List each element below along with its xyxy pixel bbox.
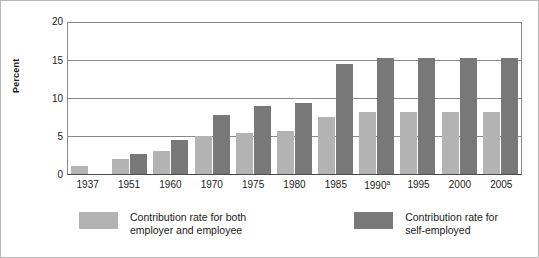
bar (254, 106, 271, 174)
x-tick-label: 1980 (274, 179, 315, 191)
bar (501, 58, 518, 174)
bar-group (400, 23, 435, 174)
x-tick-label: 2005 (481, 179, 522, 191)
bar (377, 58, 394, 174)
plot-area (67, 22, 522, 175)
x-tick-label: 1937 (67, 179, 108, 191)
legend-swatch-icon-light (79, 212, 118, 229)
bar-group (71, 23, 106, 174)
y-tick-label-0: 0 (23, 169, 63, 180)
legend-entry-employer-employee: Contribution rate for both employer and … (79, 211, 246, 237)
bar (442, 112, 459, 174)
x-tick-label: 1975 (233, 179, 274, 191)
bar (400, 112, 417, 174)
y-axis-ticks: 20 15 10 5 0 (19, 1, 63, 258)
bar-group (359, 23, 394, 174)
x-tick-footnote-marker: a (387, 179, 391, 186)
bar (359, 112, 376, 174)
x-tick-label: 1951 (109, 179, 150, 191)
bar-group (236, 23, 271, 174)
bar-group (277, 23, 312, 174)
bar (295, 103, 312, 174)
chart-legend: Contribution rate for both employer and … (79, 211, 498, 237)
bar (71, 166, 88, 174)
bar-group (195, 23, 230, 174)
bar (277, 131, 294, 174)
bar (460, 58, 477, 174)
x-tick-label: 1960 (150, 179, 191, 191)
bar (112, 159, 129, 174)
bar (418, 58, 435, 174)
bar (153, 151, 170, 174)
bar-groups (68, 23, 521, 174)
y-tick-label-20: 20 (23, 16, 63, 27)
x-axis-ticks: 19371951196019701975198019851990a1995200… (67, 179, 522, 191)
bar (213, 115, 230, 174)
bar-group (318, 23, 353, 174)
bar (195, 136, 212, 174)
legend-entry-self-employed: Contribution rate for self-employed (354, 211, 498, 237)
bar (483, 112, 500, 174)
legend-label-self-employed: Contribution rate for self-employed (405, 211, 498, 237)
x-tick-label: 1995 (398, 179, 439, 191)
legend-label-employer-employee: Contribution rate for both employer and … (130, 211, 246, 237)
chart-figure: Percent 20 15 10 5 0 1937195119601970197… (0, 0, 539, 258)
bar (336, 64, 353, 174)
y-tick-label-5: 5 (23, 131, 63, 142)
x-tick-label: 1985 (315, 179, 356, 191)
y-tick-label-10: 10 (23, 93, 63, 104)
y-tick-label-15: 15 (23, 55, 63, 66)
bar (171, 140, 188, 174)
bar (130, 154, 147, 174)
bar-group (112, 23, 147, 174)
legend-swatch-icon-dark (354, 212, 393, 229)
bar-group (442, 23, 477, 174)
bar-group (153, 23, 188, 174)
bar (318, 117, 335, 174)
bar-group (483, 23, 518, 174)
x-tick-label: 2000 (439, 179, 480, 191)
bar (236, 133, 253, 174)
x-tick-label: 1970 (191, 179, 232, 191)
x-tick-label: 1990a (357, 179, 398, 191)
